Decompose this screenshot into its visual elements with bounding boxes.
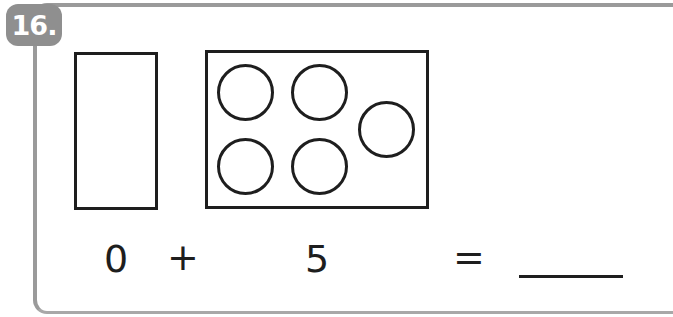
counter-circle [217,138,274,195]
counter-circle [291,64,348,121]
problem-number: 16. [12,10,57,41]
addend-2: 5 [305,240,329,278]
counter-circle [358,101,415,158]
addend-1: 0 [104,240,128,278]
answer-blank[interactable] [519,275,623,278]
counter-circle [217,64,274,121]
equals-sign: = [453,238,485,276]
group-a-box [74,52,158,210]
counter-circle [291,138,348,195]
plus-sign: + [167,238,199,276]
problem-number-badge: 16. [6,4,62,46]
